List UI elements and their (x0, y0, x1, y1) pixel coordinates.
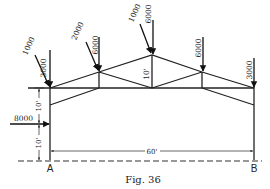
label-span: 60' (147, 148, 158, 156)
label-upper-column-height: 10' (35, 101, 43, 112)
knee-brace-left (50, 88, 99, 105)
label-lower-column-height: 10' (35, 138, 43, 149)
label-horizontal-load: 8000 (14, 114, 33, 123)
label-left-eave-vertical: 3000 (39, 58, 48, 77)
support-label-a: A (47, 163, 54, 174)
support-label-b: B (251, 163, 258, 174)
diagonal-right (152, 72, 202, 88)
load-peak-inclined-arrow (140, 24, 151, 53)
truss-diagram: 3000 1000 6000 2000 6000 1000 6000 3000 … (0, 0, 270, 189)
label-left-panel-inclined: 2000 (70, 20, 86, 41)
knee-brace-right (202, 88, 254, 105)
label-left-panel-vertical: 6000 (91, 35, 100, 54)
label-right-panel-vertical: 6000 (194, 38, 203, 57)
label-truss-rise: 10' (142, 68, 151, 80)
label-peak-vertical: 6000 (144, 4, 153, 23)
label-peak-inclined: 1000 (127, 2, 143, 23)
label-left-eave-inclined: 1000 (21, 35, 37, 56)
figure-caption: Fig. 36 (125, 174, 161, 185)
label-right-eave-vertical: 3000 (245, 60, 254, 79)
